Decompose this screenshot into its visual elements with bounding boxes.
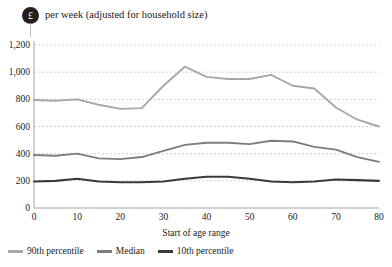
chart-plot-area: 02004006008001,0001,20001020304050607080 [0, 0, 392, 267]
legend-item-median[interactable]: Median [97, 246, 145, 257]
y-axis-tick-label: 400 [0, 149, 30, 159]
x-axis-tick-label: 40 [192, 212, 222, 222]
y-axis-tick-label: 1,000 [0, 67, 30, 77]
y-axis-tick-label: 1,200 [0, 40, 30, 50]
line-chart-svg [0, 0, 392, 267]
y-axis-tick-label: 600 [0, 122, 30, 132]
x-axis-title: Start of age range [0, 228, 392, 238]
series-line [34, 67, 379, 127]
x-axis-tick-label: 50 [235, 212, 265, 222]
y-axis-tick-label: 200 [0, 176, 30, 186]
x-axis-tick-label: 10 [62, 212, 92, 222]
legend-item-10th-percentile[interactable]: 10th percentile [158, 246, 234, 257]
chart-legend: 90th percentile Median 10th percentile [8, 246, 233, 257]
legend-swatch-icon [8, 250, 23, 253]
x-axis-tick-label: 20 [105, 212, 135, 222]
legend-item-90th-percentile[interactable]: 90th percentile [8, 246, 84, 257]
legend-label: 90th percentile [27, 246, 84, 257]
y-axis-tick-label: 800 [0, 94, 30, 104]
legend-label: 10th percentile [177, 246, 234, 257]
x-axis-tick-label: 0 [19, 212, 49, 222]
x-axis-tick-label: 60 [278, 212, 308, 222]
legend-swatch-icon [158, 250, 173, 253]
x-axis-tick-label: 80 [364, 212, 392, 222]
series-line [34, 141, 379, 162]
series-line [34, 177, 379, 182]
legend-label: Median [116, 246, 145, 257]
x-axis-tick-label: 30 [148, 212, 178, 222]
x-axis-tick-label: 70 [321, 212, 351, 222]
legend-swatch-icon [97, 250, 112, 253]
